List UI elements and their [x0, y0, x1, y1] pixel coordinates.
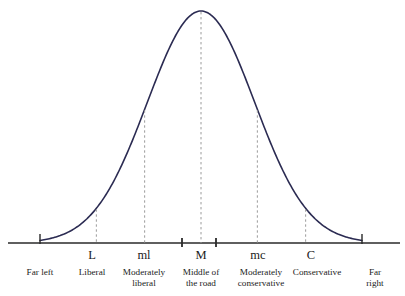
- category-label-line1: Moderately: [123, 267, 165, 277]
- category-label-far-right: Far right: [360, 267, 390, 288]
- category-label-line2: liberal: [123, 278, 165, 289]
- category-label-conservative: Conservative: [293, 267, 341, 278]
- tick-label-conservative: C: [307, 249, 315, 262]
- category-label-line1: Middle of: [183, 267, 220, 277]
- category-label-middle: Middle of the road: [183, 267, 220, 288]
- axis-ticks: [40, 234, 362, 247]
- tick-label-middle: M: [195, 249, 206, 262]
- category-label-line1: Far left: [27, 267, 54, 277]
- category-label-mod-cons: Moderately conservative: [238, 267, 284, 288]
- tick-label-liberal: L: [88, 249, 96, 262]
- category-label-line1: Far right: [366, 267, 383, 288]
- category-label-line2: conservative: [238, 278, 284, 289]
- category-label-line1: Moderately: [240, 267, 282, 277]
- bell-curve-path: [40, 11, 362, 240]
- tick-label-mod-cons: mc: [250, 249, 265, 262]
- tick-label-mod-liberal: ml: [137, 249, 150, 262]
- dashed-guide-lines: [96, 12, 305, 243]
- category-label-line1: Liberal: [79, 267, 106, 277]
- bell-curve-figure: L ml M mc C Far left Liberal Moderately …: [0, 0, 405, 296]
- category-label-line2: the road: [183, 278, 220, 289]
- category-label-far-left: Far left: [27, 267, 54, 278]
- category-label-mod-liberal: Moderately liberal: [123, 267, 165, 288]
- category-label-line1: Conservative: [293, 267, 341, 277]
- category-label-liberal: Liberal: [79, 267, 106, 278]
